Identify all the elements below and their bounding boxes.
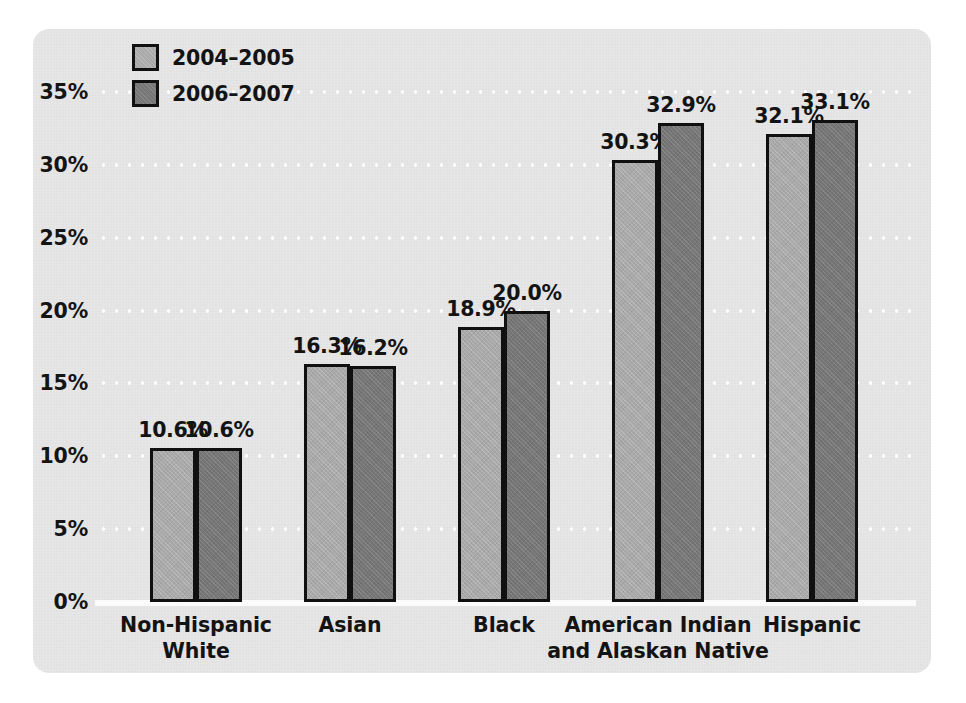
- legend-swatch-icon: [132, 80, 159, 107]
- bar[interactable]: [612, 160, 658, 602]
- x-axis-category-label-line: and Alaskan Native: [533, 639, 783, 665]
- y-axis-tick-label: 15%: [16, 373, 88, 394]
- bar[interactable]: [350, 366, 396, 602]
- bar-value-label: 32.9%: [626, 95, 736, 116]
- bar[interactable]: [812, 120, 858, 602]
- bar[interactable]: [658, 123, 704, 602]
- y-axis-tick-label: 35%: [16, 82, 88, 103]
- bar[interactable]: [458, 327, 504, 602]
- legend-item-label: 2004–2005: [172, 46, 295, 70]
- bar-value-label: 20.0%: [472, 283, 582, 304]
- x-axis-category-label: Hispanic: [687, 613, 937, 639]
- legend-swatch-icon: [132, 44, 159, 71]
- y-axis-tick-label: 20%: [16, 301, 88, 322]
- bar-value-label: 10.6%: [164, 420, 274, 441]
- bar[interactable]: [196, 448, 242, 602]
- bar[interactable]: [150, 448, 196, 602]
- legend-item-2006-2007[interactable]: 2006–2007: [132, 80, 295, 107]
- legend-item-2004-2005[interactable]: 2004–2005: [132, 44, 295, 71]
- bar[interactable]: [504, 311, 550, 602]
- bar-value-label: 33.1%: [780, 92, 890, 113]
- y-axis-tick-label: 10%: [16, 446, 88, 467]
- legend-item-label: 2006–2007: [172, 82, 295, 106]
- bar-value-label: 16.2%: [318, 338, 428, 359]
- y-axis-tick-label: 30%: [16, 155, 88, 176]
- y-axis-tick-label: 25%: [16, 228, 88, 249]
- bar[interactable]: [304, 364, 350, 602]
- y-axis-tick-label: 5%: [16, 519, 88, 540]
- y-axis-tick-label: 0%: [16, 592, 88, 613]
- x-axis-category-label-line: Hispanic: [687, 613, 937, 639]
- x-axis-category-label-line: White: [71, 639, 321, 665]
- bar-chart: 35%30%25%20%15%10%5%0% 10.6%10.6%16.3%16…: [0, 0, 966, 703]
- bar[interactable]: [766, 134, 812, 602]
